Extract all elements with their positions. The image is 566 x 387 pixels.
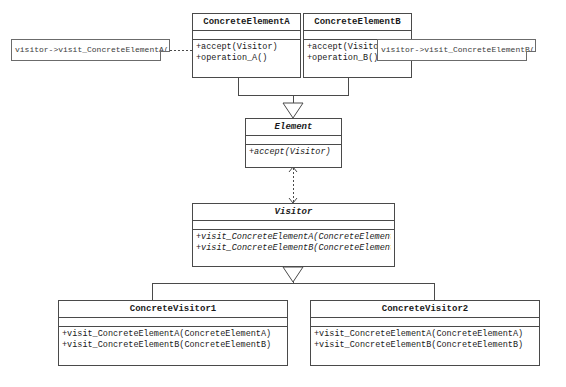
operation-item: +visit_ConcreteElementA(ConcreteElementA… — [314, 329, 536, 340]
attributes-compartment — [193, 31, 300, 40]
class-concrete-element-a[interactable]: ConcreteElementA +accept(Visitor) +opera… — [192, 13, 301, 78]
uml-class-diagram: visitor->visit_ConcreteElementA(this) vi… — [0, 0, 566, 387]
class-name-compartment: Visitor — [193, 204, 394, 221]
generalization-arrowhead-visitor — [283, 267, 303, 282]
operation-item: +visit_ConcreteElementB(ConcreteElementB… — [314, 340, 536, 351]
generalization-arrowhead-element — [283, 103, 303, 118]
operation-item: +visit_ConcreteElementA(ConcreteElementA… — [62, 329, 284, 340]
note-body: visitor->visit_ConcreteElementA(this) — [11, 39, 170, 61]
class-name-compartment: Element — [246, 119, 341, 136]
class-name-compartment: ConcreteVisitor1 — [59, 301, 287, 318]
operations-compartment: +accept(Visitor) — [246, 145, 341, 161]
attributes-compartment — [311, 318, 539, 327]
class-name: Visitor — [197, 207, 390, 217]
note-fold-corner-icon — [526, 51, 536, 61]
class-element[interactable]: Element +accept(Visitor) — [245, 118, 342, 168]
class-name: ConcreteElementB — [308, 17, 407, 27]
class-concrete-visitor-2[interactable]: ConcreteVisitor2 +visit_ConcreteElementA… — [310, 300, 540, 366]
class-concrete-visitor-1[interactable]: ConcreteVisitor1 +visit_ConcreteElementA… — [58, 300, 288, 366]
class-name-compartment: ConcreteVisitor2 — [311, 301, 539, 318]
note-concrete-element-b: visitor->visit_ConcreteElementB(this) — [377, 39, 536, 61]
class-name: ConcreteElementA — [197, 17, 296, 27]
operation-item: +visit_ConcreteElementB(ConcreteElementB… — [62, 340, 284, 351]
operation-item: +accept(Visitor) — [196, 42, 297, 53]
class-visitor[interactable]: Visitor +visit_ConcreteElementA(Concrete… — [192, 203, 395, 267]
class-name: Element — [250, 122, 337, 132]
operation-item: +visit_ConcreteElementB(ConcreteElementB… — [196, 243, 391, 254]
class-name: ConcreteVisitor1 — [63, 304, 283, 314]
attributes-compartment — [193, 221, 394, 230]
operation-item: +operation_A() — [196, 53, 297, 64]
operations-compartment: +visit_ConcreteElementA(ConcreteElementA… — [311, 327, 539, 354]
operation-item: +accept(Visitor) — [249, 147, 338, 158]
operations-compartment: +accept(Visitor) +operation_A() — [193, 40, 300, 67]
class-name-compartment: ConcreteElementB — [304, 14, 411, 31]
note-concrete-element-a: visitor->visit_ConcreteElementA(this) — [11, 39, 170, 61]
note-fold-corner-icon — [160, 51, 170, 61]
class-name-compartment: ConcreteElementA — [193, 14, 300, 31]
edge-generalization-visitor-bus — [152, 283, 434, 300]
note-text: visitor->visit_ConcreteElementA(this) — [12, 45, 169, 55]
edge-generalization-element-a — [238, 78, 293, 95]
attributes-compartment — [246, 136, 341, 145]
operation-item: +visit_ConcreteElementA(ConcreteElementA… — [196, 232, 391, 243]
edge-generalization-element-b — [293, 78, 348, 95]
operations-compartment: +visit_ConcreteElementA(ConcreteElementA… — [59, 327, 287, 354]
page-bleed-through — [30, 185, 33, 197]
attributes-compartment — [59, 318, 287, 327]
operations-compartment: +visit_ConcreteElementA(ConcreteElementA… — [193, 230, 394, 257]
class-name: ConcreteVisitor2 — [315, 304, 535, 314]
note-text: visitor->visit_ConcreteElementB(this) — [378, 45, 535, 55]
note-body: visitor->visit_ConcreteElementB(this) — [377, 39, 536, 61]
